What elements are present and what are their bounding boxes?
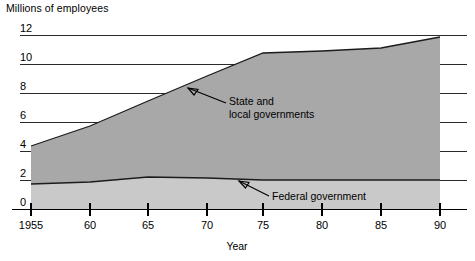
x-tick-label-85: 85 xyxy=(375,219,387,231)
federal-annotation-line1: Federal government xyxy=(272,190,366,203)
state-local-annotation: State and local governments xyxy=(229,95,314,120)
x-tick-label-80: 80 xyxy=(316,219,328,231)
x-tick-label-75: 75 xyxy=(257,219,269,231)
federal-annotation: Federal government xyxy=(272,190,366,203)
state-local-annotation-line2: local governments xyxy=(229,108,314,121)
plot-canvas xyxy=(0,0,475,261)
x-tick-label-60: 60 xyxy=(84,219,96,231)
x-tick-label-90: 90 xyxy=(434,219,446,231)
x-tick-label-65: 65 xyxy=(142,219,154,231)
x-axis-title: Year xyxy=(226,240,247,252)
employment-area-chart: Millions of employees 12 10 8 6 4 2 0 xyxy=(0,0,475,261)
x-tick-label-1955: 1955 xyxy=(19,219,43,231)
x-tick-label-70: 70 xyxy=(201,219,213,231)
state-local-annotation-line1: State and xyxy=(229,95,314,108)
